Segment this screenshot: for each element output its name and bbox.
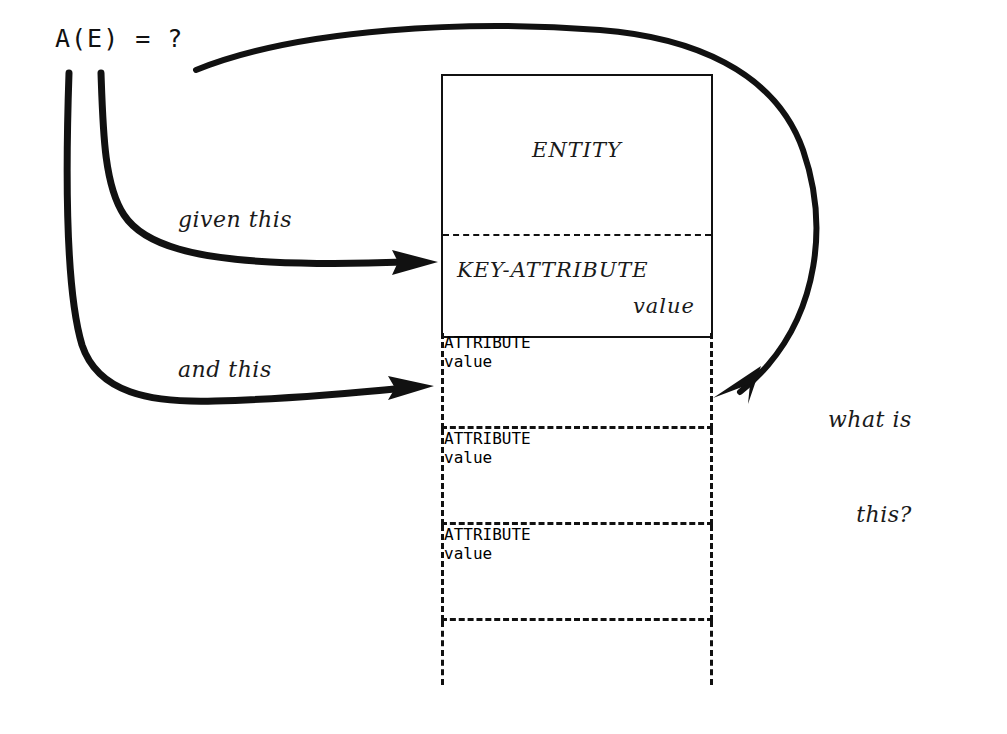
attribute-rows-continuation	[441, 621, 713, 685]
attribute-name: ATTRIBUTE	[444, 429, 710, 448]
arrowhead-given-this	[392, 250, 438, 275]
arrowhead-what-is-this	[713, 366, 761, 404]
attribute-row: ATTRIBUTE value	[441, 429, 713, 525]
attribute-rows-stack: ATTRIBUTE value ATTRIBUTE value ATTRIBUT…	[441, 333, 713, 685]
attribute-value: value	[444, 352, 710, 371]
attribute-value: value	[444, 544, 710, 563]
key-attribute-name: KEY-ATTRIBUTE	[457, 258, 649, 282]
attribute-row: ATTRIBUTE value	[441, 333, 713, 429]
annotation-what-is-this-line2: this?	[828, 499, 912, 531]
diagram-canvas: A(E) = ? given this and this what is thi…	[0, 0, 1007, 734]
entity-cell: ENTITY	[443, 76, 711, 236]
curve-and-this	[67, 73, 405, 401]
curve-given-this	[101, 73, 408, 264]
entity-record-box: ENTITY KEY-ATTRIBUTE value	[441, 74, 713, 338]
attribute-name: ATTRIBUTE	[444, 333, 710, 352]
key-attribute-cell: KEY-ATTRIBUTE value	[443, 236, 711, 336]
key-attribute-value: value	[633, 294, 695, 318]
entity-name: ENTITY	[443, 138, 711, 162]
annotation-given-this: given this	[178, 207, 292, 232]
annotation-and-this: and this	[178, 357, 272, 382]
arrowhead-and-this	[388, 376, 434, 400]
attribute-name: ATTRIBUTE	[444, 525, 710, 544]
annotation-what-is-this-line1: what is	[828, 404, 912, 436]
attribute-value: value	[444, 448, 710, 467]
annotation-what-is-this: what is this?	[828, 340, 912, 595]
formula-label: A(E) = ?	[55, 24, 183, 53]
attribute-row: ATTRIBUTE value	[441, 525, 713, 621]
